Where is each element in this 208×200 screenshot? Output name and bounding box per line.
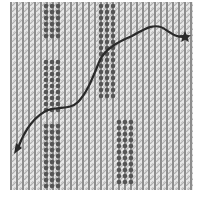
dot: [50, 154, 55, 159]
dot: [99, 88, 104, 93]
dot: [99, 82, 104, 87]
dot: [44, 84, 49, 89]
dot: [50, 166, 55, 171]
dot: [105, 10, 110, 15]
dot: [50, 60, 55, 65]
dot: [44, 16, 49, 21]
dot: [56, 16, 61, 21]
dot: [123, 150, 128, 155]
dot: [111, 28, 116, 33]
dot: [56, 28, 61, 33]
dot: [56, 66, 61, 71]
dot: [50, 102, 55, 107]
dot: [105, 40, 110, 45]
dot: [111, 22, 116, 27]
dot: [44, 160, 49, 165]
dot: [56, 124, 61, 129]
dot: [44, 90, 49, 95]
dot: [105, 16, 110, 21]
dot: [105, 94, 110, 99]
dot: [129, 162, 134, 167]
dot: [129, 150, 134, 155]
dot: [129, 156, 134, 161]
dot: [44, 34, 49, 39]
dot: [129, 144, 134, 149]
dot: [111, 34, 116, 39]
dot: [111, 10, 116, 15]
dot: [44, 124, 49, 129]
dot: [111, 4, 116, 9]
dot: [123, 156, 128, 161]
dot: [56, 10, 61, 15]
dot: [111, 58, 116, 63]
dot: [99, 34, 104, 39]
dot: [105, 22, 110, 27]
dot: [123, 138, 128, 143]
band-left-bottom: [44, 124, 61, 189]
dot: [111, 64, 116, 69]
dot: [56, 136, 61, 141]
dot: [111, 70, 116, 75]
dot: [117, 120, 122, 125]
dot: [56, 4, 61, 9]
dot: [117, 162, 122, 167]
dot: [99, 28, 104, 33]
dot: [44, 66, 49, 71]
dot: [56, 172, 61, 177]
band-left-middle: [44, 60, 61, 113]
dot: [123, 144, 128, 149]
dot: [99, 70, 104, 75]
dot: [105, 28, 110, 33]
dot: [129, 138, 134, 143]
dot: [56, 154, 61, 159]
dot: [50, 142, 55, 147]
dot: [44, 28, 49, 33]
dot: [50, 22, 55, 27]
dot: [44, 96, 49, 101]
dot: [50, 172, 55, 177]
dot: [129, 126, 134, 131]
dot: [44, 166, 49, 171]
dot: [50, 34, 55, 39]
dot: [44, 72, 49, 77]
dot: [105, 4, 110, 9]
dot: [50, 90, 55, 95]
dot: [105, 64, 110, 69]
dot: [44, 154, 49, 159]
dot: [44, 102, 49, 107]
dot: [50, 96, 55, 101]
dot: [56, 60, 61, 65]
dot: [117, 174, 122, 179]
dot: [50, 84, 55, 89]
dot: [117, 138, 122, 143]
dot: [56, 34, 61, 39]
dot: [44, 22, 49, 27]
dot: [123, 168, 128, 173]
dot: [99, 46, 104, 51]
dot: [56, 178, 61, 183]
dot: [50, 124, 55, 129]
dot: [44, 136, 49, 141]
dot: [105, 88, 110, 93]
dot: [117, 132, 122, 137]
dot: [50, 28, 55, 33]
dot: [129, 132, 134, 137]
dot: [44, 130, 49, 135]
dot: [50, 72, 55, 77]
dot: [117, 156, 122, 161]
dot: [56, 78, 61, 83]
band-center-bottom: [117, 120, 134, 185]
dot: [111, 16, 116, 21]
dot: [44, 148, 49, 153]
dot: [44, 184, 49, 189]
dot: [50, 160, 55, 165]
dot: [99, 16, 104, 21]
dot: [117, 144, 122, 149]
dot: [50, 4, 55, 9]
dot: [99, 94, 104, 99]
dot: [99, 22, 104, 27]
dot: [50, 16, 55, 21]
dot: [56, 90, 61, 95]
dot: [56, 72, 61, 77]
dot: [111, 88, 116, 93]
